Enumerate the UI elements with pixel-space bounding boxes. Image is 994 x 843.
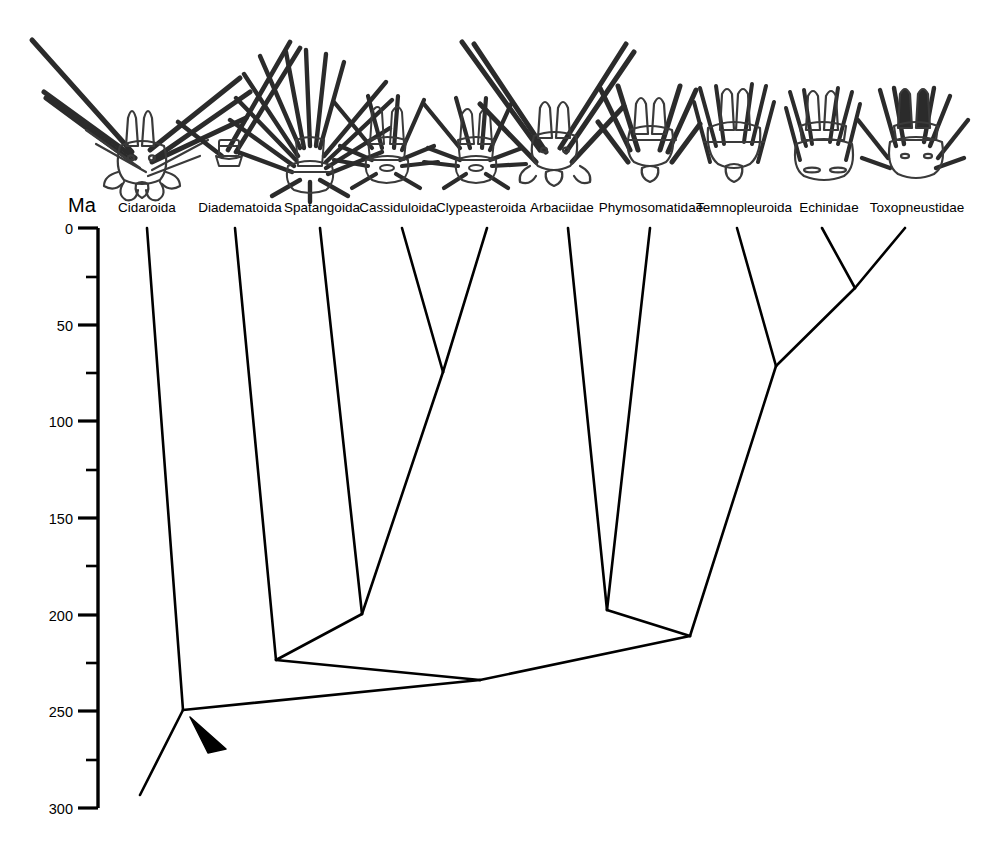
- tip-label-spatangoida: Spatangoida: [284, 200, 360, 215]
- tip-label-toxopneustidae: Toxopneustidae: [870, 200, 965, 215]
- branch-diadematoida: [235, 228, 276, 660]
- tip-label-diadematoida: Diadematoida: [198, 200, 282, 215]
- calibration-arrowhead: [190, 717, 226, 753]
- axis-unit-label: Ma: [68, 194, 97, 216]
- tip-label-phymosomatidae: Phymosomatidae: [599, 200, 703, 215]
- illus-echinidae: [786, 88, 860, 180]
- axis-tick-label-50: 50: [57, 318, 73, 334]
- axis-tick-label-150: 150: [49, 511, 73, 527]
- branch-root-to-stem: [183, 680, 480, 710]
- branch-stem-to-echinacea-node: [480, 636, 690, 680]
- arrowhead-icon: [190, 717, 226, 753]
- branch-echinacea-node-to-temnopleurid-node: [690, 366, 776, 636]
- axis-tick-label-100: 100: [49, 414, 73, 430]
- tip-label-cidaroida: Cidaroida: [118, 200, 176, 215]
- tree-branches: [140, 228, 905, 795]
- time-axis: [78, 228, 98, 808]
- axis-tick-label-300: 300: [49, 801, 73, 817]
- illus-temnopleuroida: [694, 84, 774, 182]
- axis-tick-labels: 0 50 100 150 200 250 300: [49, 221, 73, 817]
- branch-phymosomatidae: [607, 228, 650, 610]
- branch-echinidae: [822, 228, 855, 288]
- tip-label-echinidae: Echinidae: [799, 200, 858, 215]
- branch-temnopleuroida: [737, 228, 776, 366]
- branch-root-stem: [140, 710, 183, 795]
- branch-diadematoid-node-to-spatangoid-node: [276, 614, 362, 660]
- branch-stem-to-diadematoid-node: [276, 660, 480, 680]
- branch-temnopleurid-node-to-echinid-node: [776, 288, 855, 366]
- tip-labels: Ma Cidaroida Diadematoida Spatangoida Ca…: [68, 194, 964, 216]
- phylogeny-figure: Ma Cidaroida Diadematoida Spatangoida Ca…: [0, 0, 994, 843]
- tip-label-temnopleuroida: Temnopleuroida: [696, 200, 793, 215]
- illus-toxopneustidae: [858, 88, 968, 178]
- axis-tick-label-200: 200: [49, 608, 73, 624]
- axis-tick-label-0: 0: [65, 221, 73, 237]
- branch-cidaroida: [147, 228, 183, 710]
- illus-arbaciidae: [462, 42, 634, 186]
- branch-cassiduloida: [402, 228, 443, 372]
- branch-spatangoida: [320, 228, 362, 614]
- branch-clypeasteroida: [443, 228, 487, 372]
- illus-cidaroida: [32, 40, 250, 200]
- illustration-row: [32, 40, 968, 202]
- illus-phymosomatidae: [598, 86, 700, 182]
- tip-label-arbaciidae: Arbaciidae: [530, 200, 594, 215]
- phylogeny-svg: Ma Cidaroida Diadematoida Spatangoida Ca…: [0, 0, 994, 843]
- axis-major-ticks: [78, 228, 98, 808]
- tip-label-cassiduloida: Cassiduloida: [359, 200, 437, 215]
- branch-spatangoid-node-to-cassidulo-node: [362, 372, 443, 614]
- branch-arbaciidae: [568, 228, 607, 610]
- axis-tick-label-250: 250: [49, 704, 73, 720]
- branch-toxopneustidae: [855, 228, 905, 288]
- tip-label-clypeasteroida: Clypeasteroida: [436, 200, 527, 215]
- branch-echinacea-node-to-arbacia-node: [607, 610, 690, 636]
